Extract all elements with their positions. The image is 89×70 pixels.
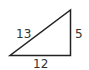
vertical-leg-label: 5 bbox=[75, 27, 83, 41]
hypotenuse-label: 13 bbox=[16, 27, 31, 41]
triangle-diagram: 13 5 12 bbox=[0, 0, 89, 70]
horizontal-leg-label: 12 bbox=[33, 57, 48, 70]
